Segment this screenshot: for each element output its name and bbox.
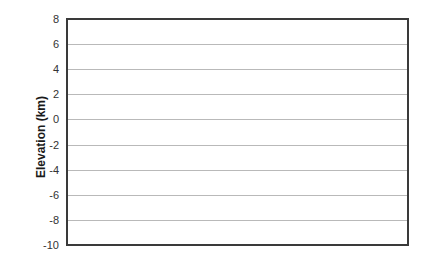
y-tick-label: 6 bbox=[19, 38, 59, 50]
gridline bbox=[68, 119, 407, 120]
gridline bbox=[68, 94, 407, 95]
y-tick-label: -10 bbox=[19, 239, 59, 251]
gridline bbox=[68, 170, 407, 171]
gridline bbox=[68, 145, 407, 146]
y-axis-label: Elevation (km) bbox=[34, 96, 48, 178]
y-tick-label: -8 bbox=[19, 214, 59, 226]
gridline bbox=[68, 220, 407, 221]
y-tick-label: 4 bbox=[19, 63, 59, 75]
y-tick-label: -6 bbox=[19, 189, 59, 201]
y-tick-label: 8 bbox=[19, 13, 59, 25]
gridline bbox=[68, 195, 407, 196]
elevation-chart: 86420-2-4-6-8-10 Elevation (km) bbox=[0, 0, 433, 271]
gridline bbox=[68, 69, 407, 70]
gridline bbox=[68, 44, 407, 45]
plot-area bbox=[66, 18, 409, 246]
